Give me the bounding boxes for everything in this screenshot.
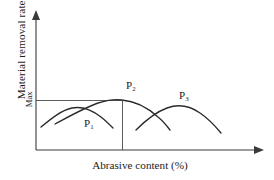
figure-container: Material removal rates Max Abrasive cont… — [0, 0, 274, 180]
max-tick-label: Max — [25, 84, 34, 114]
annotation-p2-subscript: 2 — [132, 85, 135, 92]
annotation-p1: P1 — [84, 118, 94, 129]
curve-p2 — [55, 100, 170, 130]
annotation-p2: P2 — [126, 80, 136, 91]
annotation-p1-subscript: 1 — [90, 123, 93, 130]
curve-p1 — [41, 107, 113, 128]
annotation-p3-subscript: 3 — [185, 95, 188, 102]
chart-canvas — [0, 0, 274, 180]
y-axis-arrow-icon — [32, 10, 40, 20]
annotation-p3: P3 — [179, 90, 189, 101]
x-axis-label: Abrasive content (%) — [70, 160, 210, 171]
x-axis-arrow-icon — [254, 146, 264, 154]
